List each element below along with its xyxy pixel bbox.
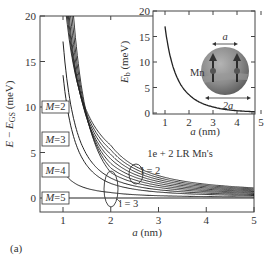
ellipse-l2-label: l = 2 — [141, 165, 160, 176]
inset-plot: a 2a Mn 12345 05101520 a (nm) Eb (meV) — [118, 5, 264, 138]
y-tick-label: 20 — [25, 10, 37, 22]
inset-x-tick-label: 4 — [234, 116, 240, 128]
inset-x-axis-title: a (nm) — [190, 125, 220, 138]
x-tick-label: 1 — [60, 214, 66, 226]
mn-atom-left — [210, 68, 216, 74]
annotation-text: 1e + 2 LR Mn's — [147, 148, 213, 159]
level-label: M=5 — [45, 192, 66, 203]
x-tick-label: 2 — [108, 214, 114, 226]
ellipse-l3-label: l = 3 — [119, 198, 138, 209]
ellipse-l3 — [104, 171, 118, 207]
inset-x-tick-label: 5 — [258, 116, 264, 128]
inset-x-tick-label: 1 — [162, 116, 168, 128]
level-label: M=3 — [45, 134, 66, 145]
main-x-axis-title: a (nm) — [132, 226, 162, 239]
inset-y-axis-title: Eb (meV) — [118, 41, 132, 85]
panel-label: (a) — [10, 242, 23, 255]
inset-y-tick-label: 5 — [145, 82, 151, 94]
y-tick-label: 15 — [25, 56, 37, 68]
quantum-dot-sphere — [201, 47, 249, 95]
level-labels: M=2M=3M=4M=5 — [42, 101, 69, 204]
inset-y-tick-label: 10 — [139, 56, 151, 68]
mn-label: Mn — [190, 67, 205, 78]
spacing-a-label: a — [222, 31, 227, 42]
x-tick-label: 4 — [204, 214, 210, 226]
x-tick-label: 5 — [251, 214, 257, 226]
y-tick-label: 0 — [31, 192, 37, 204]
mn-atom-right — [234, 68, 240, 74]
level-label: M=4 — [45, 165, 67, 176]
inset-y-tick-label: 20 — [139, 5, 151, 17]
level-label: M=2 — [45, 101, 66, 112]
y-tick-label: 10 — [25, 101, 37, 113]
spacing-2a-label: 2a — [223, 100, 234, 111]
energy-vs-spacing-chart: 12345 05101520 M=2M=3M=4M=5 l = 3 l = 2 … — [0, 0, 273, 269]
inset-y-tick-label: 15 — [139, 31, 151, 43]
main-y-axis-title: E − EGS (meV) — [3, 80, 17, 148]
y-tick-label: 5 — [31, 147, 37, 159]
inset-y-tick-label: 0 — [145, 107, 151, 119]
x-tick-label: 3 — [156, 214, 162, 226]
